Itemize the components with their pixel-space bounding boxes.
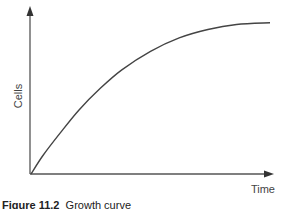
y-axis-arrow (27, 6, 34, 16)
x-axis-label: Time (251, 183, 275, 195)
figure-label: Figure 11.2 (2, 199, 59, 209)
growth-chart: Cells Time (0, 0, 289, 209)
x-axis-arrow (264, 171, 274, 178)
series-line-growth (31, 23, 270, 174)
figure-caption-text: Growth curve (66, 199, 131, 209)
figure-caption: Figure 11.2 Growth curve (2, 199, 131, 209)
y-axis-label: Cells (12, 83, 24, 108)
